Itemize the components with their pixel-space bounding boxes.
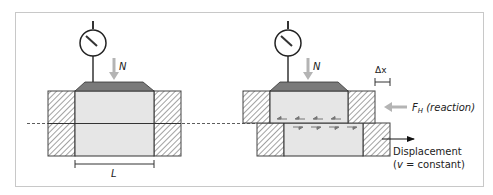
right-upper-box-right-wall (348, 91, 375, 123)
right-lower-box-left-wall (257, 123, 284, 156)
right-load-plate (270, 82, 348, 91)
left-load-plate (75, 82, 154, 91)
right-normal-force-label: N (313, 61, 321, 72)
right-upper-box-left-wall (243, 91, 270, 123)
right-upper-soil (270, 91, 348, 123)
left-normal-force-label: N (119, 61, 127, 72)
displacement-label: Displacement (393, 146, 462, 157)
right-lower-soil (284, 123, 363, 156)
displacement-condition-label: (v = constant) (393, 159, 465, 170)
length-label: L (111, 168, 117, 179)
direct-shear-diagram: N L N (0, 0, 493, 195)
delta-x-label: Δx (375, 65, 387, 75)
